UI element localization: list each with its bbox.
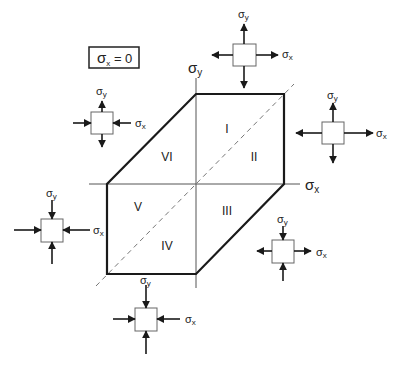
svg-text:σy: σy	[277, 213, 288, 227]
region-label-III: III	[222, 204, 232, 218]
x-axis-label: σx	[305, 176, 319, 195]
svg-text:σy: σy	[46, 187, 57, 201]
svg-text:σy: σy	[327, 89, 338, 103]
region-label-V: V	[134, 200, 142, 214]
failure-envelope-diagram: σx = 0 σx σy I II III IV V VI σy σx σy	[0, 0, 401, 367]
region-label-IV: IV	[161, 239, 172, 253]
region-label-II: II	[251, 150, 258, 164]
svg-text:σx: σx	[135, 117, 146, 131]
svg-text:σx: σx	[376, 127, 387, 141]
svg-text:σx: σx	[93, 224, 104, 238]
stress-element-II: σy σx	[296, 89, 387, 163]
svg-text:σy: σy	[140, 274, 151, 288]
stress-element-VI: σy σx	[73, 85, 146, 147]
stress-element-III: σy σx	[257, 213, 327, 281]
region-label-I: I	[225, 122, 228, 136]
condition-box: σx = 0	[89, 47, 139, 68]
svg-text:σx: σx	[185, 313, 196, 327]
svg-text:σy: σy	[238, 8, 249, 22]
svg-text:σx = 0: σx = 0	[97, 49, 132, 68]
stress-element-I: σy σx	[212, 8, 293, 88]
diagonal-dashed-line	[96, 84, 294, 286]
stress-element-IV: σy σx	[113, 274, 196, 354]
region-label-VI: VI	[161, 150, 172, 164]
svg-text:σx: σx	[316, 246, 327, 260]
svg-text:σy: σy	[96, 85, 107, 99]
stress-element-V: σy σx	[14, 187, 104, 264]
y-axis-label: σy	[188, 59, 202, 78]
svg-text:σx: σx	[282, 48, 293, 62]
